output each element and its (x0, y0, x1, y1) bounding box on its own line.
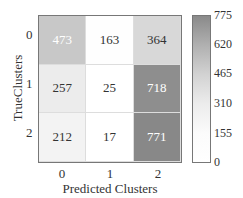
heatmap-cell: 163 (86, 16, 133, 65)
x-tick-1: 1 (100, 166, 120, 182)
heatmap-grid: 4731633642572571821217771 (38, 15, 182, 163)
heatmap-cell: 25 (86, 65, 133, 114)
colorbar-tick: 155 (214, 126, 232, 141)
y-tick-2: 2 (26, 125, 33, 141)
colorbar-tick: 465 (214, 66, 232, 81)
colorbar (192, 15, 211, 163)
heatmap-cell: 718 (134, 65, 181, 114)
colorbar-tick: 310 (214, 96, 232, 111)
y-axis-label: TrueClusters (10, 48, 26, 128)
x-tick-2: 2 (148, 166, 168, 182)
heatmap-cell: 771 (134, 113, 181, 162)
heatmap-cell: 364 (134, 16, 181, 65)
heatmap-cell: 257 (39, 65, 86, 114)
y-tick-0: 0 (26, 27, 33, 43)
x-tick-0: 0 (52, 166, 72, 182)
colorbar-tick: 0 (214, 155, 220, 170)
x-axis-label: Predicted Clusters (38, 181, 182, 197)
heatmap-cell: 212 (39, 113, 86, 162)
colorbar-tick: 620 (214, 37, 232, 52)
heatmap-cell: 17 (86, 113, 133, 162)
y-tick-1: 1 (26, 76, 33, 92)
colorbar-tick: 775 (214, 8, 232, 23)
heatmap-cell: 473 (39, 16, 86, 65)
